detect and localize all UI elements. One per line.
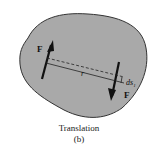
caption-title: Translation <box>0 123 158 133</box>
caption-sub: (b) <box>0 134 158 144</box>
force-label-left: F <box>37 44 43 54</box>
rigid-body-blob <box>20 14 147 118</box>
force-label-right: F <box>124 90 130 100</box>
